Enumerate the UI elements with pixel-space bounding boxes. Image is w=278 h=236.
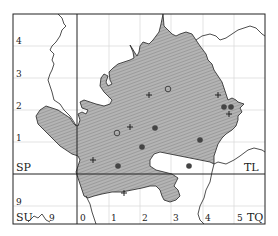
y-tick-1: 1 — [16, 134, 22, 143]
filled-circle-icon — [115, 163, 121, 169]
y-tick-4: 4 — [16, 37, 22, 46]
x-tick-0: 0 — [80, 214, 86, 223]
x-tick-5: 5 — [237, 214, 243, 223]
x-tick-2: 2 — [142, 214, 148, 223]
x-tick-1: 1 — [111, 214, 117, 223]
square-label-sp: SP — [16, 162, 31, 173]
filled-circle-icon — [152, 125, 158, 131]
northern-boundary — [196, 26, 265, 40]
square-label-su: SU — [16, 212, 33, 223]
filled-circle-icon — [221, 104, 227, 110]
x-tick-9: 9 — [49, 214, 55, 223]
x-tick-3: 3 — [173, 214, 179, 223]
x-tick-4: 4 — [205, 214, 211, 223]
square-label-tl: TL — [244, 162, 259, 173]
filled-circle-icon — [228, 104, 234, 110]
y-tick-2: 2 — [16, 102, 22, 111]
distribution-map — [0, 0, 278, 236]
filled-circle-icon — [197, 137, 203, 143]
square-label-tq: TQ — [247, 212, 263, 223]
filled-circle-icon — [186, 163, 192, 169]
y-tick-9: 9 — [16, 198, 22, 207]
filled-circle-icon — [139, 144, 145, 150]
river-southwest — [86, 196, 96, 224]
y-tick-3: 3 — [16, 70, 22, 79]
